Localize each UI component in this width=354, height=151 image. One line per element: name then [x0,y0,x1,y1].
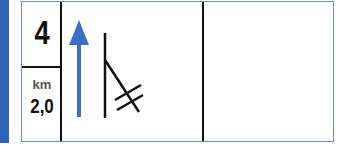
straight-arrow-icon [69,20,89,117]
route-diagram [0,0,354,151]
road-branch-icon [105,33,139,118]
